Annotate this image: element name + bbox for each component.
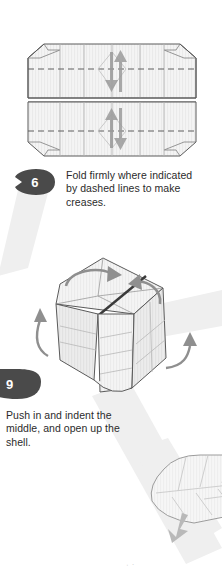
step-6-badge: 6 bbox=[14, 168, 56, 196]
open-arrow-head-right bbox=[183, 332, 197, 346]
instruction-page: 6 Fold firmly where indicated by dashed … bbox=[0, 0, 222, 579]
leaf-badge-icon bbox=[14, 168, 56, 196]
leaf-badge-icon bbox=[0, 368, 42, 400]
bottom-partial-caption: · · bbox=[126, 560, 136, 570]
box-center-panel bbox=[98, 314, 134, 392]
step-6-text: Fold firmly where indicated by dashed li… bbox=[66, 169, 198, 209]
open-arrow-head-left bbox=[34, 308, 47, 322]
figure-step-6 bbox=[14, 36, 210, 166]
figure-next-partial bbox=[142, 455, 222, 555]
center-fold-line bbox=[28, 98, 196, 102]
step-6: 6 Fold firmly where indicated by dashed … bbox=[14, 168, 198, 209]
step-9-text: Push in and indent the middle, and open … bbox=[6, 409, 130, 449]
step-9-badge: 9 bbox=[0, 368, 42, 400]
open-arrow-icon-right bbox=[166, 346, 190, 368]
open-arrow-icon-left bbox=[37, 320, 48, 356]
box-left-panel bbox=[56, 304, 98, 380]
